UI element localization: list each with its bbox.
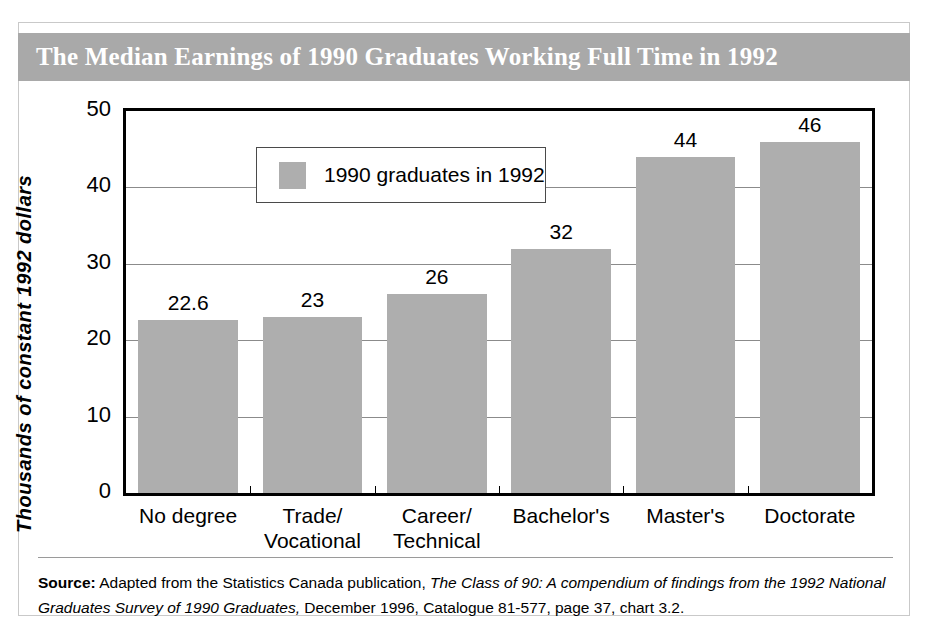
- bar-value-label: 44: [626, 128, 746, 152]
- bar: [263, 317, 362, 493]
- category-label-line: Doctorate: [725, 504, 895, 529]
- bar-value-label: 22.6: [128, 291, 248, 315]
- bar: [138, 320, 237, 493]
- bar-value-label: 46: [750, 113, 870, 137]
- x-axis-tick-mark: [499, 486, 500, 493]
- x-axis-tick-mark: [623, 486, 624, 493]
- bar-value-label: 32: [501, 220, 621, 244]
- bar: [760, 142, 859, 493]
- page-title: The Median Earnings of 1990 Graduates Wo…: [18, 43, 778, 71]
- x-axis-tick-mark: [748, 486, 749, 493]
- source-line2-plain: December 1996, Catalogue 81-577, page 37…: [300, 599, 684, 616]
- bar: [387, 294, 486, 493]
- chart-plot-region: Thousands of constant 1992 dollars 01020…: [19, 81, 909, 551]
- source-line1-italic: The Class of 90: A compendium of finding…: [430, 574, 786, 591]
- chart-figure: The Median Earnings of 1990 Graduates Wo…: [0, 0, 930, 629]
- x-axis-category-label: Doctorate: [725, 504, 895, 529]
- source-line1-plain: Adapted from the Statistics Canada publi…: [96, 574, 430, 591]
- chart-title-banner: The Median Earnings of 1990 Graduates Wo…: [18, 33, 910, 81]
- y-axis-title: Thousands of constant 1992 dollars: [13, 193, 36, 533]
- legend-label: 1990 graduates in 1992: [324, 163, 545, 187]
- source-prefix: Source:: [38, 574, 96, 591]
- bar: [636, 157, 735, 493]
- source-note: Source: Adapted from the Statistics Cana…: [38, 570, 900, 620]
- y-axis-tick-label: 50: [59, 96, 111, 122]
- x-axis-tick-mark: [375, 486, 376, 493]
- source-divider: [38, 557, 893, 558]
- y-axis-tick-label: 0: [59, 478, 111, 504]
- y-axis-tick-label: 30: [59, 249, 111, 275]
- chart-legend: 1990 graduates in 1992: [256, 147, 546, 203]
- y-axis-tick-label: 10: [59, 402, 111, 428]
- legend-swatch-icon: [279, 162, 306, 189]
- bar: [511, 249, 610, 493]
- bar-value-label: 26: [377, 265, 497, 289]
- y-axis-tick-label: 20: [59, 325, 111, 351]
- category-label-line: Technical: [352, 529, 522, 554]
- bar-value-label: 23: [253, 288, 373, 312]
- y-axis-tick-label: 40: [59, 172, 111, 198]
- x-axis-tick-mark: [250, 486, 251, 493]
